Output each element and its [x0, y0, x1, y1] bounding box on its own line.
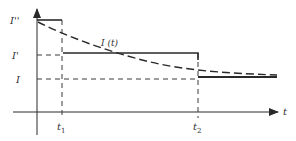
label-I-prime: I'	[11, 50, 19, 61]
label-I: I	[15, 74, 21, 85]
current-step-diagram: I'' I' I I (t) t t1 t2	[0, 0, 296, 141]
decay-curve	[38, 22, 277, 75]
label-t2: t2	[193, 121, 202, 135]
label-curve: I (t)	[100, 38, 119, 48]
label-x-axis: t	[283, 106, 288, 117]
label-I-double-prime: I''	[9, 15, 19, 26]
label-t1: t1	[57, 121, 66, 135]
